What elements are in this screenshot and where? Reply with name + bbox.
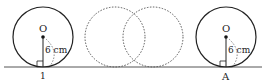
right-radius-label: 6 cm: [228, 45, 251, 55]
rolling-circle-diagram: O 6 cm 1 O 6 cm A: [0, 0, 266, 83]
left-radius-label: 6 cm: [45, 45, 68, 55]
right-contact-label: A: [221, 71, 230, 82]
left-circle-group: O 6 cm 1: [13, 7, 73, 81]
dashed-circle-2: [123, 7, 183, 67]
right-center-label: O: [222, 23, 230, 34]
left-contact-label: 1: [40, 71, 46, 81]
dashed-circle-1: [85, 7, 145, 67]
left-center-label: O: [39, 23, 47, 34]
right-circle-group: O 6 cm A: [196, 7, 256, 82]
